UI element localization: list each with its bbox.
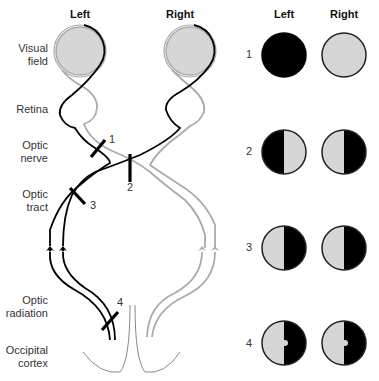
deficit-2-right-field-icon (322, 130, 366, 174)
deficit-4-right-field-icon (322, 321, 366, 365)
deficit-1-left-field-icon (262, 33, 306, 77)
visual-field-deficits (0, 0, 379, 381)
deficit-1-right-field-icon (322, 33, 366, 77)
deficit-3-left-field-icon (262, 226, 306, 270)
deficit-2-left-field-icon (262, 130, 306, 174)
deficit-4-left-field-icon (262, 321, 306, 365)
deficit-3-right-field-icon (322, 226, 366, 270)
